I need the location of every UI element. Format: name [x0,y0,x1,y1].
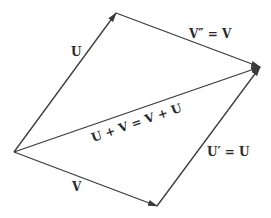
vector-v [14,152,157,206]
vector-v-double-prime [116,13,260,67]
vector-diagram: U V″ = V U + V = V + U V U′ = U [0,0,271,218]
label-v-double-prime: V″ = V [188,27,232,41]
label-u-prime: U′ = U [207,145,250,159]
label-u: U [71,45,82,59]
label-sum: U + V = V + U [89,101,184,145]
vector-u-prime [157,67,260,206]
vector-sum [14,67,260,152]
label-v: V [71,180,82,194]
